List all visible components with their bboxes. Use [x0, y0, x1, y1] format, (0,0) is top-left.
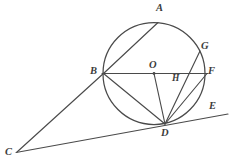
point-label-O: O: [149, 60, 157, 71]
point-label-F: F: [208, 66, 215, 77]
point-label-B: B: [90, 66, 97, 77]
point-label-A: A: [156, 3, 163, 14]
segment-group: [16, 23, 228, 153]
point-label-D: D: [161, 128, 169, 139]
point-label-E: E: [209, 101, 216, 112]
geometry-figure: A B C D E F G H O: [0, 0, 231, 168]
point-label-H: H: [172, 74, 179, 84]
vertex-dot-group: [153, 72, 156, 75]
center-point-dot: [153, 72, 156, 75]
point-label-G: G: [201, 41, 209, 52]
geometry-canvas: [0, 0, 231, 168]
point-label-C: C: [5, 147, 12, 158]
segment-CE-tangent: [16, 114, 228, 153]
segment-CB: [17, 73, 104, 152]
